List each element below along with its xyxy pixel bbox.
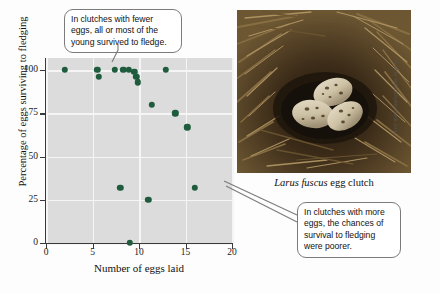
nest-photograph	[237, 10, 411, 173]
caption-rest: egg clutch	[328, 177, 374, 188]
figure-container: 0255075100 05101520 Percentage of eggs s…	[0, 0, 440, 293]
nest-photograph-image	[237, 10, 411, 173]
species-name: Larus fuscus	[274, 177, 327, 188]
photo-credit: © tony mills/Shutterstock.com	[393, 60, 399, 170]
photo-caption: Larus fuscus egg clutch	[237, 177, 411, 188]
